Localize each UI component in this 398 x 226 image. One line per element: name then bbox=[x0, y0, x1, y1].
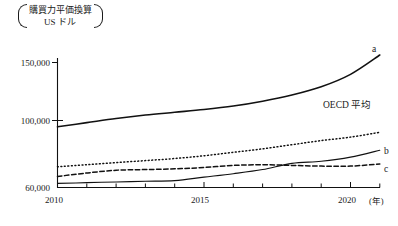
x-tick-label-2015: 2015 bbox=[191, 195, 209, 205]
y-tick-label-60000: 60,000 bbox=[8, 183, 50, 193]
series-line-oecd bbox=[58, 132, 380, 167]
x-tick-label-2020: 2020 bbox=[338, 195, 356, 205]
series-group bbox=[58, 55, 380, 183]
series-line-c bbox=[58, 164, 380, 176]
y-tick-label-100000: 100,000 bbox=[8, 116, 50, 126]
series-label-c: c bbox=[384, 164, 388, 174]
x-axis-unit-label: (年) bbox=[369, 196, 384, 206]
chart-container: 購買力平価換算 US ドル 150,00 bbox=[0, 0, 398, 226]
series-label-a: a bbox=[372, 44, 376, 54]
x-tick-label-2010: 2010 bbox=[45, 195, 63, 205]
axes-group bbox=[52, 58, 380, 188]
series-label-b: b bbox=[384, 146, 389, 156]
axis-lines bbox=[58, 58, 381, 188]
series-line-a bbox=[58, 55, 380, 127]
chart-plot-area bbox=[0, 0, 398, 226]
series-label-oecd: OECD 平均 bbox=[323, 100, 371, 111]
y-tick-label-150000: 150,000 bbox=[8, 58, 50, 68]
